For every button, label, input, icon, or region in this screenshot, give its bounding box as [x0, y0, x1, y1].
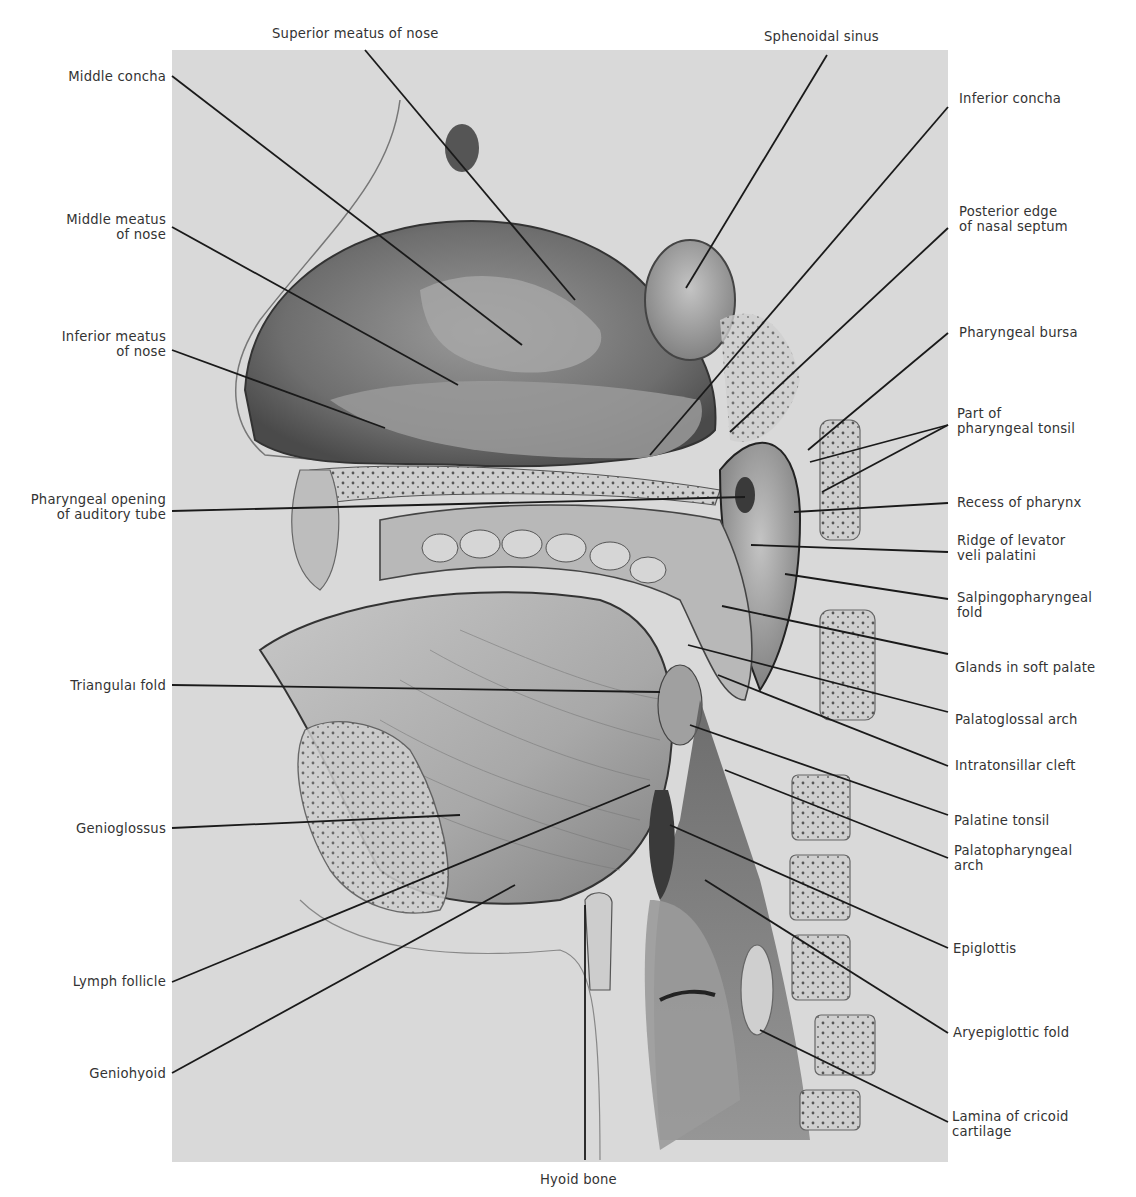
label-pharyngeal-opening: Pharyngeal opening of auditory tube	[31, 492, 166, 522]
label-palatopharyngeal-arch: Palatopharyngeal arch	[954, 843, 1072, 873]
label-lamina-cricoid: Lamina of cricoid cartilage	[952, 1109, 1069, 1139]
sphenoidal-sinus-shape	[645, 240, 735, 360]
label-sphenoidal-sinus: Sphenoidal sinus	[764, 29, 879, 44]
hyoid-shape	[585, 893, 612, 990]
label-palatine-tonsil: Palatine tonsil	[954, 813, 1049, 828]
cricoid-lamina	[741, 945, 773, 1035]
label-middle-concha: Middle concha	[68, 69, 166, 84]
auditory-tube-opening	[735, 477, 755, 513]
label-intratonsillar-cleft: Intratonsillar cleft	[955, 758, 1076, 773]
label-pharyngeal-tonsil: Part of pharyngeal tonsil	[957, 406, 1075, 436]
label-glands-soft-palate: Glands in soft palate	[955, 660, 1095, 675]
label-triangular-fold: Triangulaı fold	[70, 678, 166, 693]
neck-outline	[300, 900, 600, 1160]
label-genioglossus: Genioglossus	[76, 821, 166, 836]
label-recess-pharynx: Recess of pharynx	[957, 495, 1081, 510]
label-geniohyoid: Geniohyoid	[89, 1066, 166, 1081]
label-inferior-concha: Inferior concha	[959, 91, 1061, 106]
upper-lip	[292, 470, 339, 590]
label-superior-meatus: Superior meatus of nose	[272, 26, 439, 41]
label-aryepiglottic-fold: Aryepiglottic fold	[953, 1025, 1069, 1040]
label-salpingopharyngeal: Salpingopharyngeal fold	[957, 590, 1092, 620]
label-middle-meatus: Middle meatus of nose	[66, 212, 166, 242]
label-epiglottis: Epiglottis	[953, 941, 1016, 956]
label-inferior-meatus: Inferior meatus of nose	[62, 329, 166, 359]
label-lymph-follicle: Lymph follicle	[73, 974, 166, 989]
label-palatoglossal-arch: Palatoglossal arch	[955, 712, 1078, 727]
label-ridge-levator: Ridge of levator veli palatini	[957, 533, 1065, 563]
label-hyoid-bone: Hyoid bone	[540, 1172, 617, 1187]
label-posterior-edge-septum: Posterior edge of nasal septum	[959, 204, 1068, 234]
label-pharyngeal-bursa: Pharyngeal bursa	[959, 325, 1078, 340]
